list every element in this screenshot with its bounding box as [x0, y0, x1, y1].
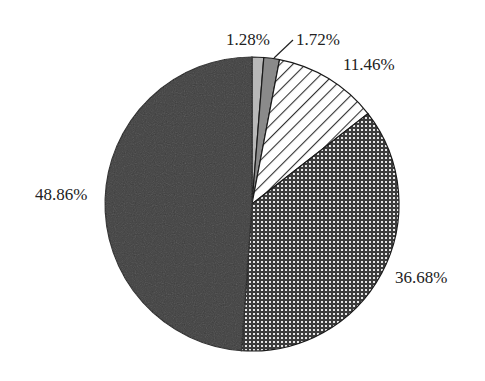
label-slice-a: 1.28% [226, 30, 270, 49]
label-slice-e: 48.86% [35, 185, 87, 204]
label-slice-c: 11.46% [343, 55, 395, 74]
label-slice-b: 1.72% [296, 30, 340, 49]
leader-line [274, 40, 293, 58]
slice-e [105, 57, 252, 351]
label-slice-d: 36.68% [395, 268, 447, 287]
pie-slices [105, 57, 399, 351]
pie-chart: 1.28% 1.72% 11.46% 36.68% 48.86% [0, 0, 485, 381]
